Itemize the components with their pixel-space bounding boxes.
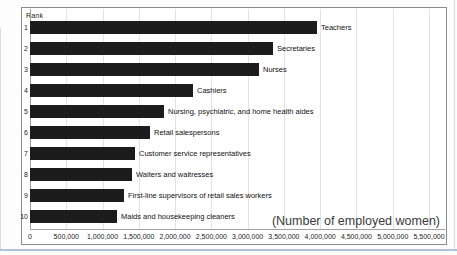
bar bbox=[30, 42, 273, 55]
bar bbox=[30, 189, 124, 202]
rank-label: 5 bbox=[0, 105, 28, 118]
bar bbox=[30, 105, 164, 118]
category-label: Waiters and waitresses bbox=[136, 168, 213, 181]
document-page: Rank 0500,0001,000,0001,500,0002,000,000… bbox=[0, 0, 457, 255]
bar bbox=[30, 210, 117, 223]
rank-label: 2 bbox=[0, 42, 28, 55]
gridline bbox=[320, 9, 321, 230]
rank-label: 6 bbox=[0, 126, 28, 139]
bar bbox=[30, 168, 132, 181]
bar bbox=[30, 84, 193, 97]
category-label: First-line supervisors of retail sales w… bbox=[128, 189, 272, 202]
table-border-line bbox=[0, 249, 457, 251]
bar-chart: Rank 0500,0001,000,0001,500,0002,000,000… bbox=[21, 7, 447, 245]
category-label: Nursing, psychiatric, and home health ai… bbox=[168, 105, 314, 118]
category-label: Teachers bbox=[321, 21, 351, 34]
bar bbox=[30, 147, 135, 160]
bar bbox=[30, 126, 150, 139]
page-edge-line-left bbox=[0, 28, 1, 251]
rank-label: 4 bbox=[0, 84, 28, 97]
gridline bbox=[393, 9, 394, 230]
category-label: Retail salespersons bbox=[154, 126, 219, 139]
category-label: Cashiers bbox=[197, 84, 227, 97]
x-axis-line bbox=[30, 229, 445, 230]
rank-label: 10 bbox=[0, 210, 28, 223]
gridline bbox=[356, 9, 357, 230]
page-edge-line-right bbox=[454, 0, 455, 251]
category-label: Nurses bbox=[263, 63, 287, 76]
x-axis-tick-label: 5,500,000 bbox=[397, 233, 457, 240]
rank-label: 3 bbox=[0, 63, 28, 76]
category-label: Customer service representatives bbox=[139, 147, 251, 160]
bar bbox=[30, 63, 259, 76]
gridline bbox=[429, 9, 430, 230]
rank-label: 1 bbox=[0, 21, 28, 34]
axis-title-rank: Rank bbox=[26, 12, 43, 19]
category-label: Secretaries bbox=[277, 42, 315, 55]
category-label: Maids and housekeeping cleaners bbox=[121, 210, 235, 223]
chart-annotation: (Number of employed women) bbox=[272, 214, 440, 228]
rank-label: 9 bbox=[0, 189, 28, 202]
rank-label: 8 bbox=[0, 168, 28, 181]
rank-label: 7 bbox=[0, 147, 28, 160]
bar bbox=[30, 21, 317, 34]
